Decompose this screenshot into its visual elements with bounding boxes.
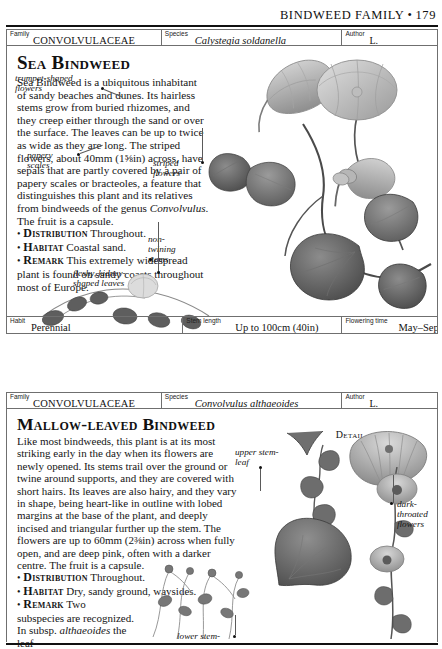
bottom-rule	[6, 643, 438, 645]
callout-dark-throated-flowers: dark- throated flowers	[397, 499, 442, 529]
flowering-time-value: May–Sept	[398, 322, 437, 333]
author-value: L.	[369, 35, 378, 45]
running-head-separator: •	[404, 8, 415, 22]
fact-distribution: • Distribution Throughout.	[17, 571, 239, 584]
family-cell: Family CONVOLVULACEAE	[7, 393, 162, 408]
leader-dot-fleshy	[157, 271, 160, 274]
fact-value: Throughout.	[90, 571, 145, 583]
author-label: Author	[345, 393, 364, 400]
leader-dot-striped	[201, 161, 204, 164]
description-text: Like most bindweeds, this plant is at it…	[17, 435, 239, 649]
callout-non-twining-stems: non- twining stems	[148, 234, 188, 264]
illustration-sea-bindweed	[207, 50, 439, 330]
page-title: Mallow-leaved Bindweed	[17, 414, 215, 435]
species-cell: Species Convolvulus althaeoides	[162, 393, 343, 408]
leader-line-upper-stem-leaf	[260, 469, 261, 491]
fact-value: Coastal sand.	[66, 241, 126, 253]
family-value: CONVOLVULACEAE	[33, 35, 135, 45]
habit-label: Habit	[10, 317, 25, 324]
callout-upper-stem-leaf: upper stem- leaf	[235, 447, 287, 467]
callout-striped-flowers: striped flowers	[153, 158, 201, 178]
species-value: Calystegia soldanella	[195, 35, 286, 45]
illustration-upper-stem-leaf	[283, 443, 357, 547]
bullet-glyph: •	[17, 228, 21, 239]
callout-fleshy-kidney-shaped-leaves: fleshy, kidney- shaped leaves	[73, 268, 153, 288]
species-label: Species	[165, 30, 188, 37]
leader-line-lower-stem-leaf	[235, 615, 236, 635]
species-label: Species	[165, 393, 188, 400]
fact-keyword: Distribution	[23, 226, 87, 240]
data-strip: Habit Perennial Stem length Up to 100cm …	[7, 316, 437, 333]
running-head: BINDWEED FAMILY•179	[280, 8, 436, 23]
page-title: Sea Bindweed	[17, 52, 130, 74]
entry-body: Sea Bindweed Sea Bindweed is a ubiquitou…	[6, 46, 438, 334]
author-label: Author	[345, 30, 364, 37]
fact-keyword: Distribution	[23, 570, 87, 584]
flowering-time-cell: Flowering time May–Sept	[342, 317, 437, 333]
stem-length-label: Stem length	[186, 317, 221, 324]
entry-mallow-leaved-bindweed: Family CONVOLVULACEAE Species Convolvulu…	[6, 392, 438, 642]
leader-dot-nontwining	[149, 258, 152, 261]
fact-keyword: Habitat	[23, 584, 63, 598]
author-cell: Author L.	[342, 30, 437, 45]
leader-dot-lower-stem-leaf	[233, 635, 236, 638]
callout-trumpet-shaped-flowers: trumpet-shaped flowers	[15, 73, 99, 93]
detail-label: Detail	[336, 429, 365, 440]
family-value: CONVOLVULACEAE	[33, 398, 135, 408]
fact-keyword: Remark	[23, 253, 64, 267]
page-number: 179	[415, 8, 436, 22]
leader-line-fleshy	[158, 222, 159, 271]
description-paragraph: Like most bindweeds, this plant is at it…	[17, 435, 239, 571]
flowering-time-label: Flowering time	[345, 317, 387, 324]
species-cell: Species Calystegia soldanella	[162, 30, 343, 45]
bullet-glyph: •	[17, 242, 21, 253]
stem-length-value: Up to 100cm (40in)	[235, 322, 318, 333]
habit-value: Perennial	[31, 322, 71, 333]
running-head-title: BINDWEED FAMILY	[280, 8, 405, 22]
fact-value: Dry, sandy ground, waysides.	[66, 585, 196, 597]
habit-cell: Habit Perennial	[7, 317, 183, 333]
top-rule	[6, 25, 438, 27]
fact-keyword: Remark	[23, 597, 64, 611]
family-cell: Family CONVOLVULACEAE	[7, 30, 162, 45]
taxonomy-header-row: Family CONVOLVULACEAE Species Calystegia…	[6, 29, 438, 46]
leader-line-dark-throated	[393, 475, 394, 503]
callout-papery-scales: papery scales	[27, 150, 75, 170]
family-label: Family	[10, 30, 29, 37]
species-value: Convolvulus althaeoides	[195, 398, 299, 408]
fact-keyword: Habitat	[23, 240, 63, 254]
entry-body: Mallow-leaved Bindweed Detail Like most …	[6, 409, 438, 642]
leader-line-striped	[202, 128, 203, 161]
fact-habitat: • Habitat Dry, sandy ground, waysides.	[17, 585, 239, 598]
subspecies-name: althaeoides	[59, 624, 110, 636]
illustration-flowering-stem	[367, 467, 439, 643]
taxonomy-header-row: Family CONVOLVULACEAE Species Convolvulu…	[6, 392, 438, 409]
callout-lower-stem-leaf: lower stem-	[177, 631, 231, 641]
bullet-glyph: •	[17, 586, 21, 597]
fact-remark: • Remark Two subspecies are recognized. …	[17, 598, 135, 649]
bullet-glyph: •	[17, 255, 21, 266]
illustration-tendril	[285, 429, 325, 457]
family-label: Family	[10, 393, 29, 400]
genus-name: Convolvulus	[150, 202, 206, 214]
fact-value: Throughout.	[90, 227, 146, 239]
bullet-glyph: •	[17, 599, 21, 610]
bullet-glyph: •	[17, 572, 21, 583]
illustration-lower-stem-leaf	[249, 513, 359, 589]
entry-sea-bindweed: Family CONVOLVULACEAE Species Calystegia…	[6, 29, 438, 359]
author-cell: Author L.	[342, 393, 437, 408]
stem-length-cell: Stem length Up to 100cm (40in)	[183, 317, 342, 333]
illustration-detail-flower	[345, 431, 439, 497]
paragraph-main: Sea Bindweed is a ubiquitous inhabitant …	[17, 76, 204, 214]
author-value: L.	[369, 398, 378, 408]
